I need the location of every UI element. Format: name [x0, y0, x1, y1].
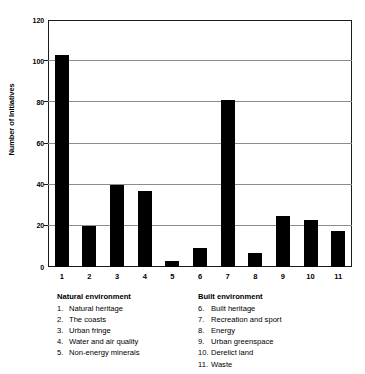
x-axis-tick-label: 10: [299, 272, 323, 281]
x-axis-tick-label: 3: [105, 272, 129, 281]
legend-item-label: Urban fringe: [69, 325, 176, 336]
legend-item: 6.Built heritage: [198, 303, 317, 314]
legend-item-label: Energy: [211, 325, 317, 336]
bar: [276, 216, 290, 267]
bar: [248, 253, 262, 267]
legend-item-number: 3.: [57, 325, 69, 336]
bar: [165, 261, 179, 267]
legend-item-label: Non-energy minerals: [69, 347, 176, 358]
bar: [138, 191, 152, 267]
legend-item-label: Derelict land: [211, 347, 317, 358]
y-axis-tick-label: 40: [20, 181, 44, 188]
legend-item-number: 7.: [198, 314, 211, 325]
legend-item: 8.Energy: [198, 325, 317, 336]
legend-item: 9.Urban greenspace: [198, 336, 317, 347]
legend-item: 4.Water and air quality: [57, 336, 176, 347]
legend-item-label: Natural heritage: [69, 303, 176, 314]
legend-column: Built environment6.Built heritage7.Recre…: [198, 291, 317, 370]
legend-item-label: Urban greenspace: [211, 336, 317, 347]
x-axis-tick-label: 9: [271, 272, 295, 281]
bar: [82, 226, 96, 267]
legend-item-label: The coasts: [69, 314, 176, 325]
y-axis-tick-label: 100: [20, 58, 44, 65]
legend-item: 2.The coasts: [57, 314, 176, 325]
legend-item-number: 2.: [57, 314, 69, 325]
legend-item: 3.Urban fringe: [57, 325, 176, 336]
legend-item-number: 8.: [198, 325, 211, 336]
y-axis-tick-label: 80: [20, 99, 44, 106]
plot-region: [48, 20, 352, 267]
x-axis-tick-labels: 1234567891011: [48, 272, 352, 284]
legend-item: 1.Natural heritage: [57, 303, 176, 314]
legend-item-number: 10.: [198, 347, 211, 358]
bars-layer: [48, 20, 352, 267]
legend-item-number: 6.: [198, 303, 211, 314]
x-axis-tick-label: 6: [188, 272, 212, 281]
legend-group-title: Built environment: [198, 291, 317, 302]
bar: [304, 220, 318, 267]
y-axis-tick-label: 20: [20, 222, 44, 229]
legend-item-label: Waste: [211, 359, 317, 370]
legend-item: 11.Waste: [198, 359, 317, 370]
legend-item: 10.Derelict land: [198, 347, 317, 358]
x-axis-tick-label: 4: [133, 272, 157, 281]
legend-item-number: 1.: [57, 303, 69, 314]
legend-item-label: Water and air quality: [69, 336, 176, 347]
legend-column: Natural environment1.Natural heritage2.T…: [57, 291, 176, 370]
x-axis-tick-label: 5: [160, 272, 184, 281]
legend-group-title: Natural environment: [57, 291, 176, 302]
legend-item-number: 5.: [57, 347, 69, 358]
bar: [110, 185, 124, 267]
legend-item-number: 9.: [198, 336, 211, 347]
y-axis-title: Number of Initiatives: [7, 70, 16, 170]
y-axis-tick-labels: 020406080100120: [16, 20, 44, 267]
x-axis-tick-label: 7: [216, 272, 240, 281]
bar: [55, 55, 69, 267]
x-axis-tick-label: 8: [243, 272, 267, 281]
bar: [331, 231, 345, 267]
x-axis-tick-label: 2: [77, 272, 101, 281]
bar: [193, 248, 207, 267]
legend-item-number: 4.: [57, 336, 69, 347]
y-axis-tick-label: 120: [20, 17, 44, 24]
legend-item: 5.Non-energy minerals: [57, 347, 176, 358]
x-axis-tick-label: 11: [326, 272, 350, 281]
y-axis-tick-label: 60: [20, 140, 44, 147]
x-axis-tick-label: 1: [50, 272, 74, 281]
chart-legend: Natural environment1.Natural heritage2.T…: [57, 291, 317, 370]
legend-item-number: 11.: [198, 359, 211, 370]
legend-item-label: Recreation and sport: [211, 314, 317, 325]
y-axis-tick-label: 0: [20, 264, 44, 271]
legend-item: 7.Recreation and sport: [198, 314, 317, 325]
bar-chart-figure: 020406080100120 Number of Initiatives 12…: [0, 0, 365, 374]
bar: [221, 100, 235, 267]
legend-item-label: Built heritage: [211, 303, 317, 314]
